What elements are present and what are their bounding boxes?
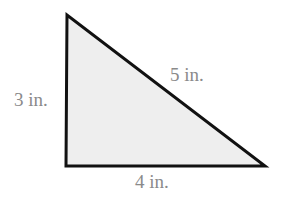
triangle-diagram: 3 in. 5 in. 4 in. (0, 0, 285, 204)
bottom-side-label: 4 in. (135, 172, 169, 191)
hypotenuse-label: 5 in. (170, 65, 204, 84)
left-side-label: 3 in. (14, 90, 48, 109)
